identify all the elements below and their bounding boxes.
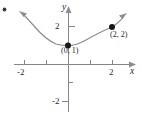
corner-bullet-mark [3, 8, 7, 12]
graph-figure: 2 -2 -2 2 y x (0, 1) (2, 2) [0, 0, 142, 118]
x-axis-tick-label-2: 2 [109, 68, 114, 77]
parabola-curve [22, 13, 124, 46]
coordinate-plane-svg [0, 0, 142, 118]
curve-right-arrowhead [119, 13, 127, 19]
x-axis-tick-label-neg2: -2 [17, 68, 25, 77]
x-axis-name-label: x [130, 67, 134, 77]
point-label-two-two: (2, 2) [110, 31, 127, 39]
y-axis-arrowhead [66, 6, 72, 13]
y-axis-name-label: y [62, 3, 66, 13]
point-label-origin: (0, 1) [61, 47, 78, 55]
y-axis-tick-label-2: 2 [55, 22, 60, 31]
y-axis-tick-label-neg2: -2 [52, 97, 60, 106]
